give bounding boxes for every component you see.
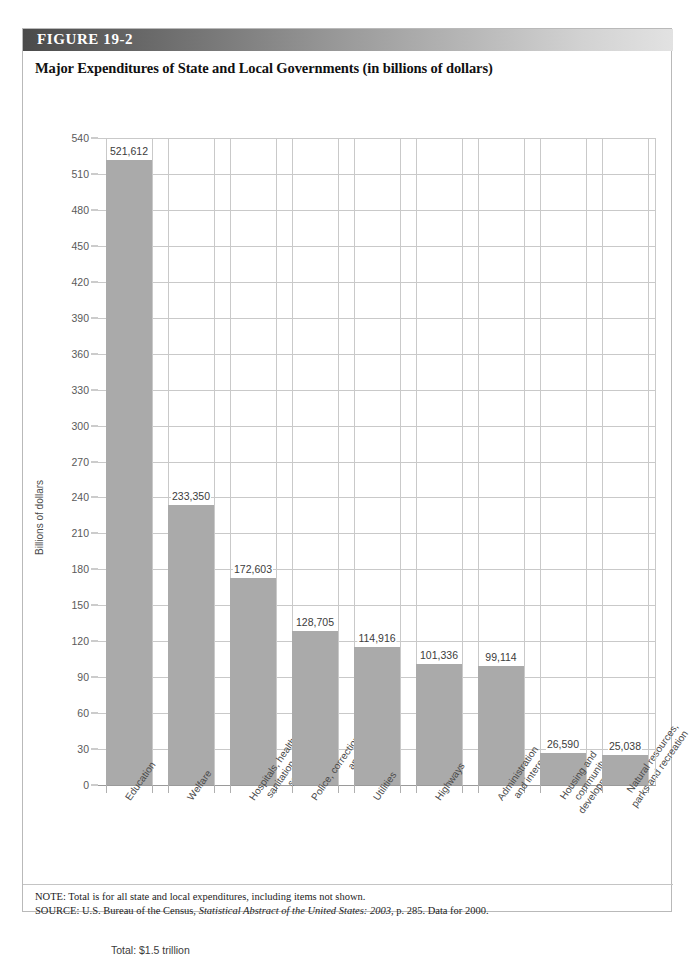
y-tick-label: 120 [71,635,89,647]
y-tick-label: 90 [77,671,89,683]
bar[interactable]: 114,916 [354,647,400,785]
bar[interactable]: 521,612 [106,160,152,785]
y-tick-mark [91,245,98,246]
total-annotation: Total: $1.5 trillion [111,944,190,956]
source-title: Statistical Abstract of the United State… [199,905,391,916]
y-tick-mark [91,605,98,606]
x-tick-mark [292,785,293,793]
bar-value-label: 26,590 [546,738,580,750]
bar-value-label: 233,350 [171,490,211,502]
gridline-horizontal [98,282,656,283]
y-tick-label: 480 [71,204,89,216]
y-tick-mark [91,281,98,282]
figure-title: Major Expenditures of State and Local Go… [35,60,493,77]
note-label: NOTE: [35,891,66,902]
gridline-horizontal [98,174,656,175]
gridline-vertical [648,138,649,785]
gridline-horizontal [98,426,656,427]
x-tick-mark [230,785,231,793]
gridline-horizontal [98,246,656,247]
x-tick-mark [400,785,401,793]
footer-notes: NOTE: Total is for all state and local e… [35,890,655,918]
y-tick-mark [91,569,98,570]
y-tick-mark [91,389,98,390]
x-tick-mark [478,785,479,793]
y-tick-label: 510 [71,168,89,180]
y-tick-label: 300 [71,420,89,432]
y-tick-mark [91,749,98,750]
y-tick-mark [91,533,98,534]
plot-area: 5405104804504203903603303002702402101801… [98,138,656,785]
y-tick-label: 270 [71,456,89,468]
gridline-vertical [214,138,215,785]
bar[interactable]: 128,705 [292,631,338,785]
y-tick-mark [91,641,98,642]
footer-divider [23,884,673,885]
bar-chart: Billions of dollars 54051048045042039036… [23,89,673,849]
source-label: SOURCE: [35,905,79,916]
note-line: NOTE: Total is for all state and local e… [35,890,655,904]
x-tick-mark [152,785,153,793]
source-line: SOURCE: U.S. Bureau of the Census, Stati… [35,904,655,918]
figure-container: FIGURE 19-2 Major Expenditures of State … [22,28,672,912]
gridline-horizontal [98,138,656,139]
y-tick-mark [91,353,98,354]
bar-value-label: 521,612 [109,145,149,157]
bar-value-label: 128,705 [295,616,335,628]
gridline-vertical [338,138,339,785]
gridline-horizontal [98,390,656,391]
gridline-vertical [276,138,277,785]
gridline-horizontal [98,210,656,211]
y-tick-mark [91,677,98,678]
y-tick-label: 150 [71,599,89,611]
y-tick-label: 450 [71,240,89,252]
note-text: Total is for all state and local expendi… [66,891,365,902]
y-tick-label: 360 [71,348,89,360]
x-tick-mark [540,785,541,793]
y-tick-label: 0 [83,779,89,791]
bar-value-label: 114,916 [357,632,396,644]
y-tick-mark [91,785,98,786]
y-tick-label: 30 [77,743,89,755]
y-tick-label: 390 [71,312,89,324]
bar[interactable]: 233,350 [168,505,214,785]
gridline-horizontal [98,318,656,319]
x-tick-mark [168,785,169,793]
bar-value-label: 25,038 [608,740,642,752]
gridline-vertical [586,138,587,785]
gridline-vertical [655,138,656,785]
y-tick-label: 540 [71,132,89,144]
bar-value-label: 101,336 [419,649,459,661]
bar[interactable]: 172,603 [230,578,276,785]
gridline-vertical [152,138,153,785]
y-tick-label: 60 [77,707,89,719]
y-tick-label: 330 [71,384,89,396]
gridline-horizontal [98,354,656,355]
x-tick-mark [462,785,463,793]
x-tick-mark [602,785,603,793]
y-tick-mark [91,497,98,498]
y-tick-mark [91,317,98,318]
x-tick-mark [106,785,107,793]
gridline-vertical [524,138,525,785]
y-tick-mark [91,173,98,174]
y-tick-mark [91,425,98,426]
gridline-vertical [602,138,603,785]
x-tick-mark [354,785,355,793]
y-tick-mark [91,138,98,139]
gridline-horizontal [98,462,656,463]
y-tick-label: 210 [71,527,89,539]
x-tick-mark [214,785,215,793]
source-post: , p. 285. Data for 2000. [391,905,489,916]
figure-number-label: FIGURE 19-2 [37,31,133,48]
y-tick-label: 240 [71,491,89,503]
bar-value-label: 172,603 [233,563,273,575]
y-tick-mark [91,209,98,210]
y-tick-label: 420 [71,276,89,288]
x-tick-mark [416,785,417,793]
y-tick-label: 180 [71,563,89,575]
gridline-vertical [540,138,541,785]
figure-number-banner: FIGURE 19-2 [23,29,673,51]
y-tick-mark [91,713,98,714]
y-axis-title: Billions of dollars [34,480,45,555]
